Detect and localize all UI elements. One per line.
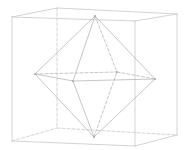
octahedron-vertices [34, 15, 156, 138]
cube-edge-ftr-ftl [12, 17, 135, 21]
octahedron-edge-top-back [95, 16, 117, 72]
octahedron-edge-bottom-back [94, 72, 117, 137]
octahedron-edge-bottom-front [73, 81, 94, 137]
octahedron-vertex-bottom [93, 136, 95, 138]
octahedron-vertex-right [154, 78, 156, 80]
octahedron-vertex-top [94, 15, 96, 17]
cube-edge-ftl-btl [12, 8, 57, 17]
octahedron-vertex-front [72, 80, 74, 82]
octahedron-edge-top-front [73, 16, 95, 81]
octahedron-in-cube-diagram [0, 0, 189, 150]
cube-wireframe [12, 8, 177, 146]
octahedron-wireframe [35, 16, 155, 137]
cube-edge-fbr-bbr [135, 135, 177, 146]
octahedron-vertex-back [116, 71, 118, 73]
octahedron-edge-top-left [35, 16, 95, 74]
cube-edge-bbl-bbr [57, 128, 177, 135]
octahedron-edge-bottom-right [94, 79, 155, 137]
cube-edge-fbl-fbr [12, 141, 135, 146]
octahedron-edge-top-right [95, 16, 155, 79]
cube-edge-btr-ftr [135, 14, 177, 21]
cube-edge-btl-btr [57, 8, 177, 14]
octahedron-edge-bottom-left [35, 74, 94, 137]
cube-edge-fbl-bbl [12, 128, 57, 141]
octahedron-vertex-left [34, 73, 36, 75]
